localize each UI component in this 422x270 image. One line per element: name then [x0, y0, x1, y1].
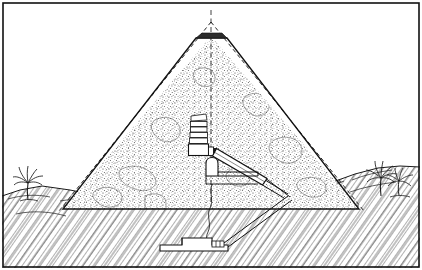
queens-chamber: [206, 158, 218, 177]
pyramid-cross-section-figure: [0, 0, 422, 270]
kings-chamber: [189, 144, 209, 156]
pyramid-diagram-canvas: [0, 0, 422, 270]
antechamber: [209, 147, 214, 156]
relieving-chambers: [190, 114, 208, 144]
summit-platform: [196, 33, 227, 38]
subterranean-passage-stub: [212, 241, 224, 247]
